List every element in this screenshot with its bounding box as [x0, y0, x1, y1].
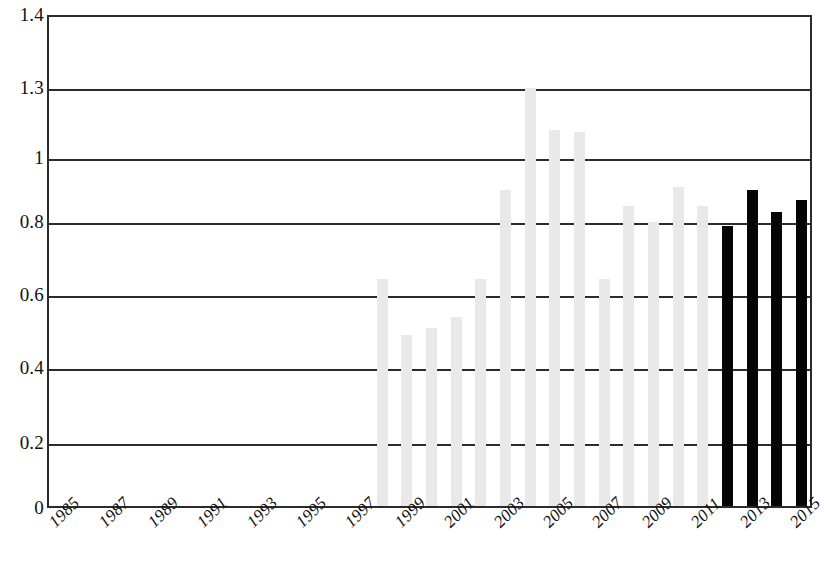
x-axis: 1985198719891991199319951997199920012003…	[0, 508, 818, 562]
gridline	[49, 223, 810, 225]
bar	[673, 187, 684, 506]
y-axis-tick-label: 0.2	[0, 433, 44, 452]
y-axis-tick-label: 1	[0, 148, 44, 167]
bar	[377, 279, 388, 506]
bar	[574, 132, 585, 506]
bar	[697, 206, 708, 506]
bar	[475, 279, 486, 506]
bar	[599, 279, 610, 506]
bar	[747, 190, 758, 506]
bar	[796, 200, 807, 506]
bar	[623, 206, 634, 506]
bar	[525, 88, 536, 506]
y-axis-tick-label: 0.4	[0, 358, 44, 377]
y-axis-tick-label: 1.4	[0, 5, 44, 24]
bar	[426, 328, 437, 506]
bar	[500, 190, 511, 506]
bar	[451, 317, 462, 506]
gridline	[49, 159, 810, 161]
gridline	[49, 296, 810, 298]
bar	[771, 212, 782, 506]
bar	[549, 130, 560, 506]
bar	[648, 222, 659, 506]
y-axis-tick-label: 0.8	[0, 212, 44, 231]
y-axis: 1.41.310.80.60.40.20	[0, 0, 44, 562]
y-axis-tick-label: 0.6	[0, 285, 44, 304]
bar	[401, 335, 412, 506]
y-axis-tick-label: 1.3	[0, 78, 44, 97]
bar	[722, 226, 733, 506]
gridline	[49, 89, 810, 91]
plot-area	[47, 15, 812, 508]
